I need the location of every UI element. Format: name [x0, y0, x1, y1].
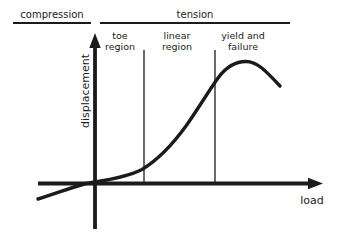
load-displacement-diagram: compression tension toe region linear re… [0, 0, 341, 244]
x-axis-arrowhead-icon [308, 178, 323, 189]
diagram-canvas [0, 0, 341, 244]
y-axis-arrowhead-icon [89, 33, 100, 48]
load-displacement-curve [38, 62, 280, 200]
